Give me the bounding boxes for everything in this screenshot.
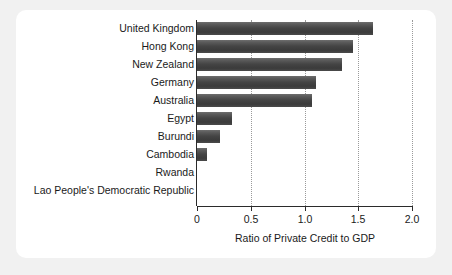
bar — [197, 94, 312, 107]
category-label: Cambodia — [146, 148, 194, 161]
category-label: Lao People's Democratic Republic — [34, 184, 194, 197]
bar-chart-plot-area: United Kingdom Hong Kong New Zealand Ger… — [0, 0, 452, 275]
bar — [197, 148, 207, 161]
x-tick-label: 1.5 — [351, 213, 366, 225]
x-tick-label: 2.0 — [405, 213, 420, 225]
bar — [197, 130, 220, 143]
bar — [197, 76, 316, 89]
x-tick-label: 1.0 — [298, 213, 313, 225]
bar — [197, 112, 232, 125]
bar — [197, 58, 342, 71]
category-label: New Zealand — [132, 58, 194, 71]
category-label: Egypt — [167, 112, 194, 125]
x-tick — [358, 206, 359, 211]
x-tick — [412, 206, 413, 211]
x-tick — [197, 206, 198, 211]
x-axis-title: Ratio of Private Credit to GDP — [197, 232, 413, 244]
y-axis-line — [196, 20, 197, 206]
x-tick — [251, 206, 252, 211]
x-tick-label: 0 — [194, 213, 200, 225]
x-tick-label: 0.5 — [244, 213, 259, 225]
gridline-1.5 — [358, 20, 359, 206]
gridline-2.0 — [412, 20, 413, 206]
category-label: Rwanda — [155, 166, 194, 179]
chart-figure: United Kingdom Hong Kong New Zealand Ger… — [0, 0, 452, 275]
bar — [197, 22, 373, 35]
category-label: Germany — [151, 76, 194, 89]
category-label: Burundi — [158, 130, 194, 143]
category-label: Hong Kong — [141, 40, 194, 53]
category-label: Australia — [153, 94, 194, 107]
bar — [197, 40, 353, 53]
x-tick — [305, 206, 306, 211]
category-label: United Kingdom — [119, 22, 194, 35]
